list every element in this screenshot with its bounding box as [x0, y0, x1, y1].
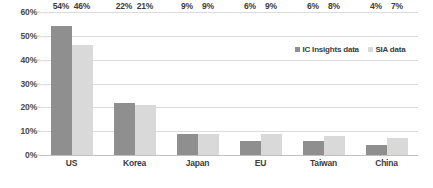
legend-swatch-icon: [295, 47, 300, 52]
bar-ic-insights-korea[interactable]: [114, 103, 135, 155]
bar-wrap: 8%: [324, 12, 345, 155]
bar-wrap: 4%: [366, 12, 387, 155]
x-label-us: US: [40, 158, 103, 178]
x-label-japan: Japan: [166, 158, 229, 178]
legend-item-sia[interactable]: SIA data: [368, 45, 406, 54]
y-tick-label: 20%: [21, 102, 37, 112]
x-label-china: China: [355, 158, 418, 178]
bar-sia-china[interactable]: [387, 138, 408, 155]
bar-ic-insights-taiwan[interactable]: [303, 141, 324, 155]
y-axis: 60% 50% 40% 30% 20% 10% 0%: [0, 0, 40, 188]
bar-value-label: 54%: [53, 1, 69, 11]
legend-label: IC Insights data: [303, 45, 359, 54]
bar-sia-japan[interactable]: [198, 134, 219, 155]
legend-item-ic-insights[interactable]: IC Insights data: [295, 45, 359, 54]
bar-value-label: 4%: [370, 1, 382, 11]
bar-wrap: 21%: [135, 12, 156, 155]
y-tick-label: 10%: [21, 126, 37, 136]
y-tick-label: 30%: [21, 79, 37, 89]
bar-wrap: 9%: [177, 12, 198, 155]
bar-value-label: 6%: [244, 1, 256, 11]
x-label-eu: EU: [229, 158, 292, 178]
bar-wrap: 9%: [261, 12, 282, 155]
bar-value-label: 8%: [328, 1, 340, 11]
y-tick-label: 40%: [21, 55, 37, 65]
bar-value-label: 9%: [202, 1, 214, 11]
x-label-taiwan: Taiwan: [292, 158, 355, 178]
bar-sia-taiwan[interactable]: [324, 136, 345, 155]
bar-wrap: 6%: [303, 12, 324, 155]
bar-wrap: 7%: [387, 12, 408, 155]
bar-wrap: 22%: [114, 12, 135, 155]
bar-chart: 60% 50% 40% 30% 20% 10% 0% 54% 46%: [0, 0, 433, 188]
legend-swatch-icon: [368, 47, 373, 52]
x-label-korea: Korea: [103, 158, 166, 178]
bar-ic-insights-us[interactable]: [51, 26, 72, 155]
bar-groups: 54% 46% 22% 21% 9% 9%: [40, 12, 418, 155]
bar-wrap: 6%: [240, 12, 261, 155]
bar-sia-eu[interactable]: [261, 134, 282, 155]
bar-ic-insights-eu[interactable]: [240, 141, 261, 155]
bar-sia-korea[interactable]: [135, 105, 156, 155]
bar-sia-us[interactable]: [72, 45, 93, 155]
bar-group-china: 4% 7%: [355, 12, 418, 155]
bar-value-label: 22%: [116, 1, 132, 11]
bar-value-label: 21%: [137, 1, 153, 11]
bar-value-label: 6%: [307, 1, 319, 11]
bar-ic-insights-china[interactable]: [366, 145, 387, 155]
y-tick-label: 50%: [21, 31, 37, 41]
bar-group-taiwan: 6% 8%: [292, 12, 355, 155]
legend-label: SIA data: [375, 45, 405, 54]
bar-value-label: 7%: [391, 1, 403, 11]
bar-ic-insights-japan[interactable]: [177, 134, 198, 155]
bar-wrap: 9%: [198, 12, 219, 155]
bar-group-japan: 9% 9%: [166, 12, 229, 155]
bar-value-label: 9%: [181, 1, 193, 11]
bar-group-eu: 6% 9%: [229, 12, 292, 155]
bar-wrap: 46%: [72, 12, 93, 155]
x-axis-labels: US Korea Japan EU Taiwan China: [40, 158, 418, 178]
gridline-baseline: [40, 155, 418, 156]
bar-group-us: 54% 46%: [40, 12, 103, 155]
bar-wrap: 54%: [51, 12, 72, 155]
bar-value-label: 9%: [265, 1, 277, 11]
bar-value-label: 46%: [74, 1, 90, 11]
y-tick-label: 60%: [21, 7, 37, 17]
legend: IC Insights data SIA data: [295, 45, 406, 54]
bar-group-korea: 22% 21%: [103, 12, 166, 155]
